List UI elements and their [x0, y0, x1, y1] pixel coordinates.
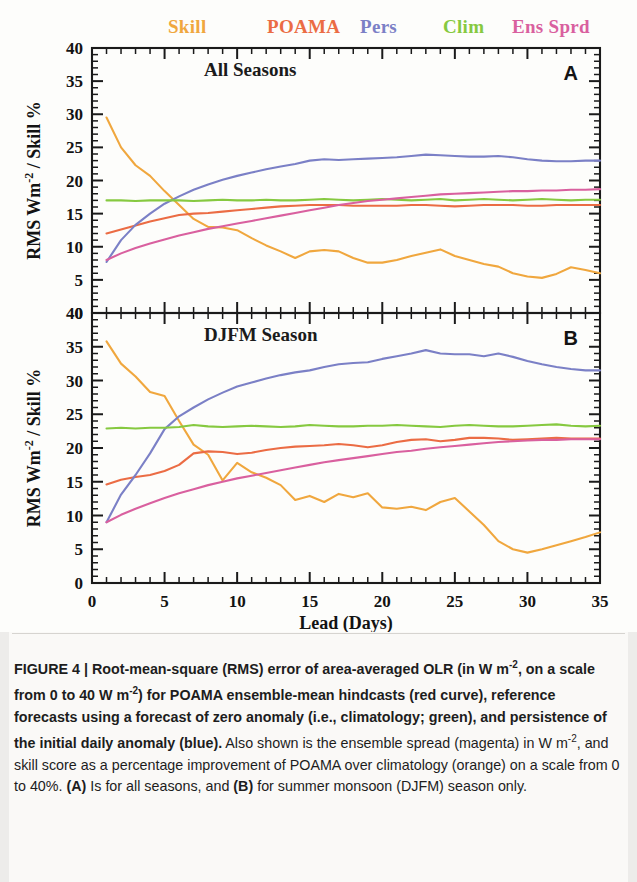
ytick-label: 35 — [66, 338, 83, 357]
ytick-label: 5 — [75, 271, 84, 290]
xtick-label: 10 — [229, 592, 246, 611]
caption-exp-3: -2 — [568, 733, 577, 744]
y-axis-title-main: RMS Wm — [24, 450, 44, 527]
ytick-label: 20 — [66, 439, 83, 458]
x-axis-title: Lead (Days) — [299, 613, 393, 632]
xtick-label: 30 — [519, 592, 536, 611]
figure-plot-area: SkillPOAMAPersClimEns Sprd 0510152025303… — [0, 0, 637, 632]
curve-skill-B — [107, 341, 600, 552]
chart-panel-B: 0510152025303540DJFM SeasonBRMS Wm-2 / S… — [22, 304, 600, 593]
xtick-label: 25 — [446, 592, 463, 611]
plot-frame-B — [92, 313, 600, 583]
y-axis-title-tail: / Skill % — [24, 369, 44, 441]
ytick-label: 20 — [66, 172, 83, 191]
xtick-label: 0 — [88, 592, 97, 611]
curve-ens-sprd-B — [107, 439, 600, 522]
panel-title-A: All Seasons — [204, 59, 296, 80]
figure-page: SkillPOAMAPersClimEns Sprd 0510152025303… — [0, 0, 637, 882]
y-axis-title-exponent: -2 — [22, 440, 36, 450]
chart-svg: 0510152025303540All SeasonsARMS Wm-2 / S… — [0, 0, 637, 632]
xtick-label: 5 — [160, 592, 169, 611]
curve-skill-A — [107, 118, 600, 278]
caption-exp-2: -2 — [129, 685, 138, 696]
ytick-label: 10 — [66, 238, 83, 257]
xtick-label: 15 — [301, 592, 318, 611]
y-axis-title-tail: / Skill % — [24, 101, 44, 173]
figure-caption: FIGURE 4 | Root-mean-square (RMS) error … — [14, 654, 622, 798]
caption-bold-lead: Root-mean-square (RMS) error of area-ave… — [92, 661, 509, 677]
figure-caption-divider — [12, 633, 625, 634]
caption-normal-1: Also shown is the ensemble spread (magen… — [222, 735, 568, 751]
ytick-label: 35 — [66, 72, 83, 91]
chart-panel-A: 0510152025303540All SeasonsARMS Wm-2 / S… — [22, 39, 600, 323]
xtick-label: 35 — [592, 592, 609, 611]
caption-normal-4: for summer monsoon (DJFM) season only. — [253, 778, 527, 794]
panel-letter-B: B — [564, 327, 578, 349]
panel-letter-A: A — [564, 62, 578, 84]
ytick-label: 25 — [66, 138, 83, 157]
ytick-label: 15 — [66, 473, 83, 492]
ytick-label: 40 — [66, 39, 83, 58]
ytick-label: 15 — [66, 205, 83, 224]
y-axis-title-main: RMS Wm — [24, 183, 44, 260]
curve-pers-A — [107, 155, 600, 262]
ytick-label: 30 — [66, 105, 83, 124]
x-axis: 05101520253035Lead (Days) — [88, 592, 609, 632]
caption-normal-3: Is for all seasons, and — [86, 778, 233, 794]
caption-exp-1: -2 — [509, 659, 518, 670]
curve-poama-A — [107, 205, 600, 233]
caption-label-b: (B) — [233, 778, 253, 794]
caption-figure-label: FIGURE 4 | — [14, 661, 88, 677]
ytick-label: 0 — [75, 574, 84, 593]
y-axis-title-A: RMS Wm-2 / Skill % — [22, 101, 44, 260]
curve-clim-A — [107, 199, 600, 201]
ytick-label: 25 — [66, 405, 83, 424]
y-axis-title-exponent: -2 — [22, 173, 36, 183]
ytick-label: 40 — [66, 304, 83, 323]
curve-poama-B — [107, 438, 600, 485]
plot-frame-A — [92, 48, 600, 313]
ytick-label: 5 — [75, 540, 84, 559]
y-axis-title-B: RMS Wm-2 / Skill % — [22, 369, 44, 528]
panel-title-B: DJFM Season — [204, 324, 318, 345]
ytick-label: 30 — [66, 372, 83, 391]
xtick-label: 20 — [374, 592, 391, 611]
ytick-label: 10 — [66, 507, 83, 526]
caption-label-a: (A) — [66, 778, 86, 794]
